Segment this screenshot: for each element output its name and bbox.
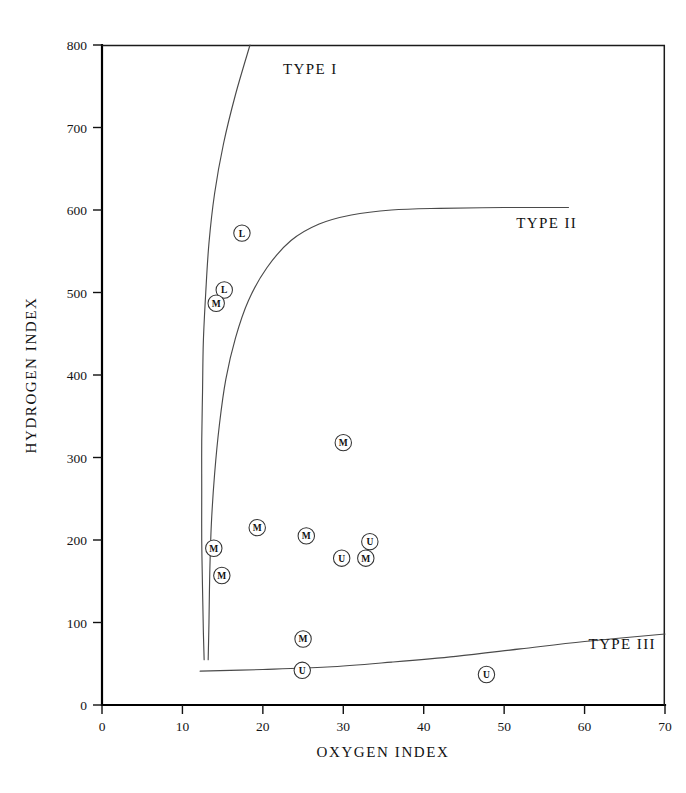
curve-type-i [202, 45, 250, 660]
kerogen-type-diagram: 0100200300400500600700800 01020304050607… [0, 0, 686, 793]
annotation-type-ii: TYPE II [516, 215, 577, 231]
marker-label: U [366, 537, 373, 547]
data-point-m[interactable]: M [214, 567, 230, 583]
x-tick-label: 70 [658, 719, 672, 734]
chart-canvas: 0100200300400500600700800 01020304050607… [0, 0, 686, 793]
data-point-u[interactable]: U [294, 662, 310, 678]
y-tick-label: 100 [67, 616, 88, 631]
y-tick-label: 500 [67, 286, 88, 301]
y-tick-label: 600 [67, 203, 88, 218]
x-tick-label: 10 [176, 719, 190, 734]
x-tick-label: 60 [578, 719, 592, 734]
y-tick-label: 700 [67, 121, 88, 136]
marker-label: U [299, 666, 306, 676]
marker-label: U [338, 554, 345, 564]
x-tick-label: 20 [256, 719, 270, 734]
marker-label: M [302, 531, 311, 541]
data-point-m[interactable]: M [208, 295, 224, 311]
plot-frame [102, 45, 665, 705]
marker-label: U [483, 670, 490, 680]
data-point-m[interactable]: M [249, 519, 265, 535]
marker-label: M [217, 571, 226, 581]
y-axis: 0100200300400500600700800 [67, 38, 102, 713]
x-tick-label: 50 [497, 719, 511, 734]
x-axis: 010203040506070 [99, 705, 672, 734]
y-tick-label: 200 [67, 533, 88, 548]
data-point-m[interactable]: M [358, 550, 374, 566]
y-tick-label: 0 [80, 698, 87, 713]
y-tick-label: 400 [67, 368, 88, 383]
data-point-m[interactable]: M [206, 540, 222, 556]
data-point-u[interactable]: U [478, 666, 494, 682]
x-tick-label: 30 [337, 719, 351, 734]
y-tick-label: 800 [67, 38, 88, 53]
data-point-u[interactable]: U [362, 533, 378, 549]
marker-label: M [253, 523, 262, 533]
x-tick-label: 40 [417, 719, 431, 734]
y-axis-title: HYDROGEN INDEX [23, 297, 39, 454]
y-tick-label: 300 [67, 451, 88, 466]
curve-type-ii [208, 207, 568, 659]
data-point-m[interactable]: M [298, 528, 314, 544]
data-point-u[interactable]: U [333, 550, 349, 566]
data-point-m[interactable]: M [295, 631, 311, 647]
marker-label: M [209, 544, 218, 554]
x-tick-label: 0 [99, 719, 106, 734]
marker-label: M [212, 299, 221, 309]
marker-label: M [339, 438, 348, 448]
data-point-l[interactable]: L [234, 225, 250, 241]
marker-label: L [239, 229, 245, 239]
annotation-type-i: TYPE I [283, 61, 338, 77]
x-axis-title: OXYGEN INDEX [317, 744, 450, 760]
kerogen-curves [200, 45, 665, 671]
marker-label: L [221, 285, 227, 295]
annotation-type-iii: TYPE III [589, 636, 656, 652]
data-points: LLMMMMUMUMMMUU [206, 225, 495, 683]
marker-label: M [361, 554, 370, 564]
data-point-m[interactable]: M [335, 434, 351, 450]
marker-label: M [299, 634, 308, 644]
